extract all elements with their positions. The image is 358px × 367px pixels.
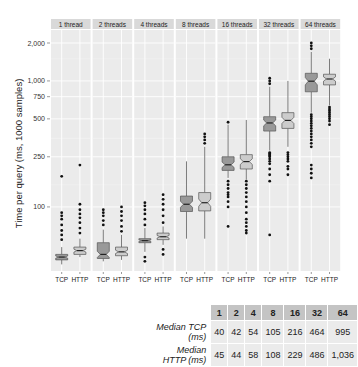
outlier-point [102, 224, 105, 227]
outlier-point [79, 232, 82, 235]
outlier-point [162, 253, 165, 256]
x-tick-label: TCP [97, 276, 110, 283]
facet-label: 16 threads [222, 21, 253, 28]
outlier-point [79, 203, 82, 206]
outlier-point [245, 200, 248, 203]
outlier-point [60, 238, 63, 241]
table-corner [149, 305, 210, 320]
outlier-point [162, 248, 165, 251]
outlier-point [162, 203, 165, 206]
facet-label: 4 threads [140, 21, 168, 28]
outlier-point [120, 214, 123, 217]
x-tick-label: HTTP [196, 276, 213, 283]
outlier-point [310, 164, 313, 167]
panel-background [93, 30, 133, 271]
cell: 58 [245, 344, 261, 366]
outlier-point [245, 187, 248, 190]
y-tick-label: 100 [33, 203, 45, 210]
outlier-point [310, 168, 313, 171]
outlier-point [310, 139, 313, 142]
outlier-point [143, 260, 146, 263]
outlier-point [310, 142, 313, 145]
median-table: 1 2 4 8 16 32 64 Median TCP (ms) 40 42 5… [148, 304, 358, 367]
outlier-point [227, 183, 230, 186]
outlier-point [310, 135, 313, 138]
cell: 1,036 [328, 344, 357, 366]
cell: 486 [306, 344, 327, 366]
outlier-point [79, 221, 82, 224]
outlier-point [227, 200, 230, 203]
outlier-point [245, 211, 248, 214]
x-tick-label: HTTP [321, 276, 338, 283]
col-header: 8 [262, 305, 283, 320]
outlier-point [143, 218, 146, 221]
cell: 45 [211, 344, 227, 366]
outlier-point [310, 47, 313, 50]
outlier-point [79, 164, 82, 167]
outlier-point [102, 214, 105, 217]
row-label: Median HTTP (ms) [149, 344, 210, 366]
outlier-point [79, 216, 82, 219]
table-row-tcp: Median TCP (ms) 40 42 54 105 216 464 995 [149, 321, 357, 343]
facet-label: 2 threads [99, 21, 127, 28]
outlier-point [143, 224, 146, 227]
panel-background [259, 30, 299, 271]
box-body [222, 157, 234, 171]
outlier-point [287, 168, 290, 171]
outlier-point [60, 214, 63, 217]
y-tick-label: 2,000 [27, 40, 45, 47]
outlier-point [268, 173, 271, 176]
outlier-point [245, 229, 248, 232]
x-tick-label: HTTP [113, 276, 130, 283]
cell: 464 [306, 321, 327, 343]
panel-background [51, 30, 91, 271]
facet-panel: 64 threadsTCPHTTP [301, 19, 341, 283]
outlier-point [310, 124, 313, 127]
facet-panel: 4 threadsTCPHTTP [134, 19, 174, 283]
outlier-point [79, 208, 82, 211]
outlier-point [162, 198, 165, 201]
outlier-point [79, 213, 82, 216]
outlier-point [310, 176, 313, 179]
col-header: 4 [245, 305, 261, 320]
y-axis-title: Time per query (ms, 1000 samples) [13, 54, 24, 254]
col-header: 64 [328, 305, 357, 320]
box-body [199, 193, 211, 211]
facet-panel: 8 threadsTCPHTTP [176, 19, 216, 283]
x-tick-label: TCP [263, 276, 276, 283]
x-tick-label: HTTP [279, 276, 296, 283]
cell: 44 [228, 344, 244, 366]
outlier-point [268, 180, 271, 183]
outlier-point [79, 227, 82, 230]
box-body [305, 73, 317, 92]
x-tick-label: TCP [222, 276, 235, 283]
facet-label: 64 threads [305, 21, 336, 28]
outlier-point [162, 193, 165, 196]
outlier-point [268, 82, 271, 85]
cell: 108 [262, 344, 283, 366]
cell: 40 [211, 321, 227, 343]
panel-background [176, 30, 216, 271]
outlier-point [143, 213, 146, 216]
outlier-point [60, 224, 63, 227]
outlier-point [120, 210, 123, 213]
boxplot-chart: 1002505007501,0002,0001 threadTCPHTTP2 t… [0, 0, 358, 300]
outlier-point [245, 180, 248, 183]
outlier-point [143, 208, 146, 211]
x-tick-label: TCP [305, 276, 318, 283]
table-row-http: Median HTTP (ms) 45 44 58 108 229 486 1,… [149, 344, 357, 366]
col-header: 16 [284, 305, 305, 320]
outlier-point [310, 113, 313, 116]
outlier-point [268, 80, 271, 83]
facet-panel: 32 threadsTCPHTTP [259, 19, 299, 283]
outlier-point [227, 225, 230, 228]
cell: 105 [262, 321, 283, 343]
outlier-point [60, 175, 63, 178]
outlier-point [60, 211, 63, 214]
row-label: Median TCP (ms) [149, 321, 210, 343]
facet-panel: 1 threadTCPHTTP [51, 19, 91, 283]
x-tick-label: TCP [180, 276, 193, 283]
box-body [264, 117, 276, 131]
x-tick-label: HTTP [238, 276, 255, 283]
cell: 42 [228, 321, 244, 343]
